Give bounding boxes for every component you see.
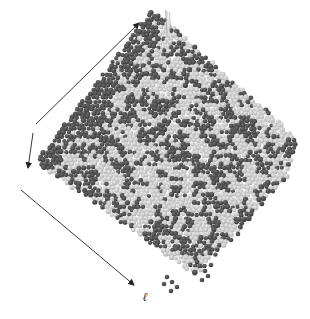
particle-field — [38, 10, 298, 293]
box-edge-highlight-line — [167, 11, 169, 33]
simulation-snapshot-figure: ℓ — [0, 0, 310, 319]
depth-arrow-icon — [28, 133, 33, 168]
axis-length-label: ℓ — [143, 290, 148, 304]
particle-snapshot-canvas: ℓ — [0, 0, 310, 319]
